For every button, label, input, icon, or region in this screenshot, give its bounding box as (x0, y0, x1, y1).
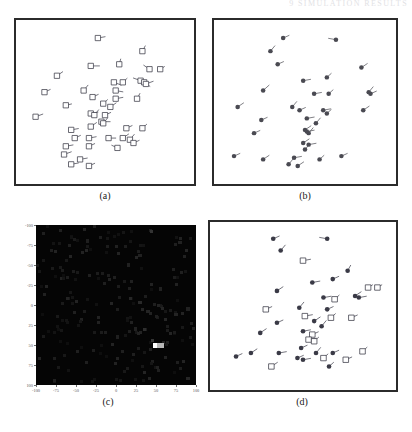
data-point (349, 315, 358, 321)
data-point (120, 78, 127, 85)
heatmap-cell (179, 237, 182, 240)
data-point (328, 37, 338, 41)
heatmap-cell (183, 255, 186, 258)
heatmap-cell (173, 371, 176, 374)
heatmap-cell (105, 251, 108, 254)
data-point (297, 107, 305, 112)
panel-b (212, 18, 398, 186)
y-tick-label: -25 (8, 283, 33, 288)
figure-container: 9 SIMULATION RESULTS (a) (b) -100-75-50-… (0, 0, 412, 432)
data-point (232, 153, 240, 158)
heatmap-cell (71, 302, 74, 305)
x-tick-label: 75 (169, 388, 183, 393)
heatmap-cell (53, 331, 56, 334)
data-point (235, 103, 243, 109)
data-point (33, 114, 43, 119)
heatmap-cell (184, 270, 187, 273)
heatmap-cell (57, 366, 60, 369)
heatmap-cell (186, 377, 189, 380)
heatmap-cell (185, 249, 188, 252)
data-point (258, 329, 267, 336)
caption-d: (d) (272, 396, 332, 408)
heatmap-cell (80, 346, 83, 349)
heatmap-cell (140, 267, 143, 270)
data-point (124, 125, 133, 130)
heatmap-cell (93, 331, 96, 334)
data-point (319, 237, 329, 242)
data-point (63, 103, 72, 108)
heatmap-cell (148, 377, 151, 380)
heatmap-cell (174, 313, 177, 316)
heatmap-cell (138, 301, 141, 304)
heatmap-cell (149, 348, 152, 351)
heatmap-cell (38, 357, 41, 360)
panel-a-plot (16, 20, 194, 184)
y-tick-mark (34, 225, 36, 226)
data-point (290, 101, 297, 109)
heatmap-cell (129, 297, 132, 300)
heatmap-cell (80, 380, 83, 383)
heatmap-cell (73, 311, 76, 314)
heatmap-cell (181, 326, 184, 329)
heatmap-cell (59, 229, 62, 232)
heatmap-cell (95, 303, 98, 306)
heatmap-cell (143, 371, 146, 374)
heatmap-cell (189, 237, 192, 240)
heatmap-cell (126, 319, 129, 322)
heatmap-cell (113, 276, 116, 279)
heatmap-cell (103, 282, 106, 285)
panel-b-scatter (214, 20, 396, 184)
heatmap-cell (134, 327, 137, 330)
heatmap-cell (165, 343, 168, 346)
panel-b-plot (214, 20, 396, 184)
data-point (134, 93, 140, 101)
x-tick-label: -75 (49, 388, 63, 393)
heatmap-cell (70, 236, 73, 239)
data-point (269, 362, 278, 369)
heatmap-cell (92, 349, 95, 352)
heatmap-cell (52, 242, 55, 245)
heatmap-cell (146, 310, 149, 313)
data-point (359, 63, 367, 69)
heatmap-cell (182, 360, 185, 363)
heatmap-cell (155, 315, 158, 318)
data-point (259, 117, 267, 122)
x-tick-mark (136, 385, 137, 387)
heatmap-cell (178, 241, 181, 244)
data-point (332, 295, 340, 302)
heatmap-cell (156, 366, 159, 369)
y-tick-label: -100 (8, 223, 33, 228)
heatmap-cell (151, 339, 154, 342)
panel-d (208, 220, 398, 392)
data-point (101, 99, 108, 106)
data-point (268, 46, 275, 54)
data-point (158, 66, 165, 71)
data-point (310, 332, 319, 338)
data-point (365, 285, 373, 291)
data-point (90, 94, 99, 99)
data-point (276, 351, 286, 356)
heatmap-cell (144, 295, 147, 298)
panel-a (14, 18, 196, 186)
heatmap-cell (97, 277, 100, 280)
heatmap-cell (51, 267, 54, 270)
data-point (328, 313, 336, 320)
heatmap-cell (124, 334, 127, 337)
data-point (54, 72, 63, 79)
heatmap-cell (123, 370, 126, 373)
heatmap-cell (130, 230, 133, 233)
heatmap-cell (139, 244, 142, 247)
y-tick-mark (34, 325, 36, 326)
heatmap-cell (128, 287, 131, 290)
y-tick-mark (34, 285, 36, 286)
caption-b: (b) (275, 190, 335, 202)
x-tick-label: 50 (149, 388, 163, 393)
data-point (143, 65, 152, 72)
heatmap-cell (191, 343, 194, 346)
data-point (301, 78, 311, 82)
data-point (281, 35, 289, 40)
heatmap-cell (100, 344, 103, 347)
heatmap-cell (99, 352, 102, 355)
heatmap-cell (76, 271, 79, 274)
heatmap-cell (127, 263, 130, 266)
